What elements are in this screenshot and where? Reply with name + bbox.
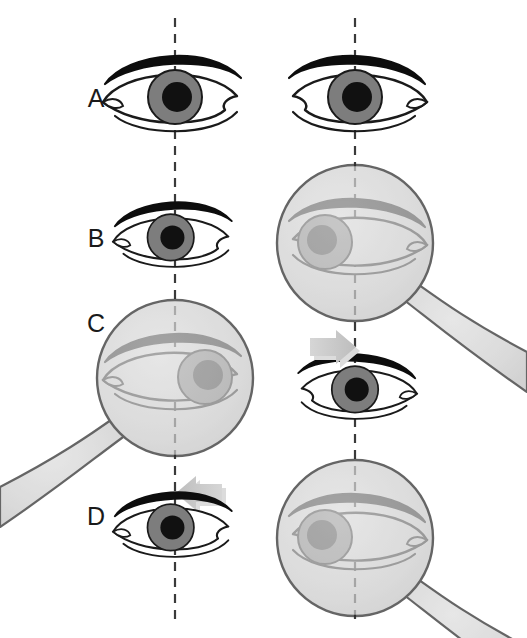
pupil [342, 82, 372, 112]
row-label-d: D [87, 502, 105, 530]
iris-row-b-left [147, 214, 193, 260]
pupil [162, 82, 192, 112]
pupil [345, 377, 369, 401]
eye-row-a-right [289, 56, 427, 131]
occluder-handle [404, 280, 527, 392]
iris-row-d-left [147, 504, 193, 550]
eye-row-a-left [103, 56, 241, 131]
iris-row-a-right [328, 70, 382, 124]
iris-row-c-right [332, 366, 378, 412]
pupil [160, 515, 184, 539]
occluder-row-d-right[interactable] [277, 460, 527, 638]
figure-canvas: A B C D [0, 0, 527, 638]
occluder-disc [277, 460, 433, 616]
occluder-disc [97, 300, 253, 456]
pupil [160, 225, 184, 249]
occluder-handle [404, 575, 527, 638]
cover-test-figure: A B C D [0, 0, 527, 638]
eye-row-b-left [113, 202, 232, 267]
eye-row-c-right [298, 354, 417, 419]
eye-row-d-left [113, 492, 232, 557]
row-a [103, 56, 427, 131]
iris-row-a-left [148, 70, 202, 124]
row-label-c: C [87, 309, 105, 337]
row-label-a: A [88, 84, 105, 112]
occluder-disc [277, 165, 433, 321]
row-label-b: B [88, 224, 105, 252]
occluder-handle [0, 415, 126, 527]
